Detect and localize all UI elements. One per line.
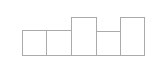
diagram-box-3 xyxy=(71,17,97,56)
diagram-box-2 xyxy=(46,30,72,56)
diagram-box-5 xyxy=(120,17,145,56)
diagram-box-1 xyxy=(22,30,47,56)
diagram-box-4 xyxy=(96,31,121,56)
